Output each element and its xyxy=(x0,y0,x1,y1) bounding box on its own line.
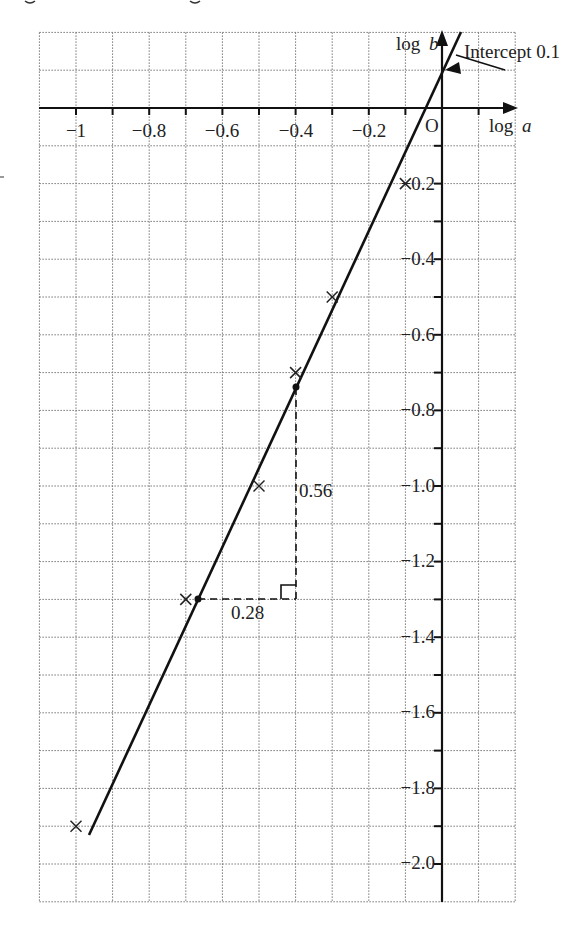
svg-text:log a: log a xyxy=(489,115,532,136)
y-tick-label: −1.6 xyxy=(401,701,435,722)
y-tick-label: −0.6 xyxy=(401,324,435,345)
intercept-annotation: Intercept 0.1 xyxy=(445,41,560,74)
y-tick-label: −1.0 xyxy=(401,475,435,496)
triangle-point xyxy=(293,384,300,391)
x-tick-label: −0.2 xyxy=(352,120,386,141)
cropped-text-fragments xyxy=(25,1,200,3)
x-tick-label: −0.8 xyxy=(132,120,166,141)
x-tick-labels: −1 −0.8 −0.6 −0.4 −0.2 xyxy=(66,120,386,141)
y-tick-label: −2.0 xyxy=(401,852,435,873)
x-axis-title-var: a xyxy=(522,115,532,136)
grid xyxy=(39,32,515,901)
x-axis-title: log a xyxy=(489,115,532,136)
y-axis-title-log: log xyxy=(396,33,421,54)
x-axis-title-log: log xyxy=(489,115,514,136)
right-angle-marker-icon xyxy=(281,585,296,599)
y-axis-title-var: b xyxy=(429,33,439,54)
y-axis-title: log b xyxy=(396,33,439,54)
svg-text:log b: log b xyxy=(396,33,439,54)
y-tick-label: −1.8 xyxy=(401,777,435,798)
rise-label: 0.56 xyxy=(299,480,332,501)
y-tick-label: −1.2 xyxy=(401,550,435,571)
axes xyxy=(39,30,518,902)
origin-label: O xyxy=(425,115,439,136)
run-label: 0.28 xyxy=(231,602,264,623)
y-tick-label: −0.4 xyxy=(401,248,436,269)
triangle-point xyxy=(195,596,202,603)
intercept-label: Intercept 0.1 xyxy=(464,41,560,62)
x-tick-label: −0.6 xyxy=(205,120,239,141)
x-tick-label: −1 xyxy=(66,120,86,141)
log-graph: −1 −0.8 −0.6 −0.4 −0.2 −0.2 −0.4 −0.6 −0… xyxy=(0,0,586,952)
y-tick-label: −0.8 xyxy=(401,399,435,420)
y-tick-label: −1.4 xyxy=(401,626,436,647)
x-axis-arrow-icon xyxy=(503,102,518,114)
x-tick-label: −0.4 xyxy=(279,120,314,141)
